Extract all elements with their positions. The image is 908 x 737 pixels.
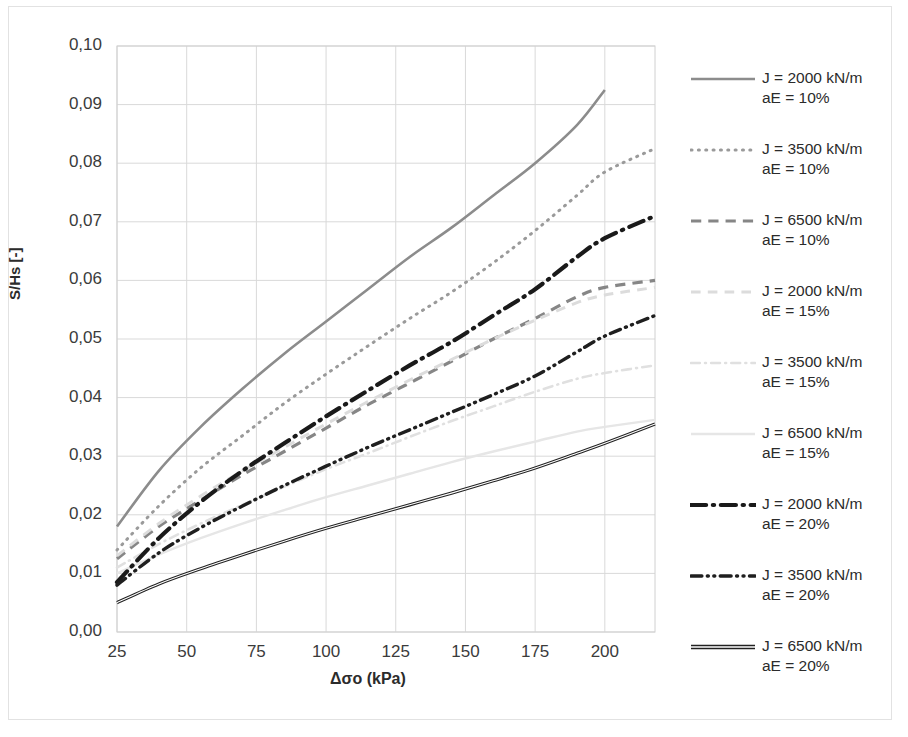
legend-entry-label-line1: J = 3500 kN/m [762,139,862,159]
y-tick-label: 0,04 [44,387,102,407]
x-tick-label: 50 [157,642,217,662]
legend-entry-label-line2: aE = 20% [762,656,862,676]
legend-entry-label-line2: aE = 10% [762,230,862,250]
legend-entry-label-line2: aE = 15% [762,372,862,392]
legend-entry-label-line1: J = 2000 kN/m [762,68,862,88]
y-tick-label: 0,06 [44,269,102,289]
legend-entry-label-line2: aE = 20% [762,585,862,605]
x-tick-label: 150 [435,642,495,662]
legend-swatch-2 [690,141,756,159]
legend-entry-4[interactable]: J = 2000 kN/maE = 15% [762,281,862,321]
legend-entry-label-line2: aE = 20% [762,514,862,534]
series-line [117,424,655,603]
legend-entry-label-line1: J = 2000 kN/m [762,494,862,514]
x-tick-label: 25 [87,642,147,662]
legend-swatch-3 [690,212,756,230]
legend-swatch-1 [690,70,756,88]
y-tick-label: 0,05 [44,328,102,348]
legend-entry-7[interactable]: J = 2000 kN/maE = 20% [762,494,862,534]
legend-swatch-7 [690,496,756,514]
y-tick-label: 0,03 [44,445,102,465]
series-line [117,420,655,574]
y-tick-label: 0,10 [44,35,102,55]
chart-page: S/Hs [-] Δσo (kPa) 0,000,010,020,030,040… [0,0,908,737]
legend-entry-label-line1: J = 2000 kN/m [762,281,862,301]
legend-swatch-5 [690,354,756,372]
x-tick-label: 200 [575,642,635,662]
legend-entry-2[interactable]: J = 3500 kN/maE = 10% [762,139,862,179]
y-tick-label: 0,00 [44,621,102,641]
series-line [117,316,655,586]
x-tick-label: 100 [296,642,356,662]
legend-entry-label-line1: J = 3500 kN/m [762,352,862,372]
legend-entry-label-line2: aE = 10% [762,159,862,179]
legend-entry-label-line1: J = 6500 kN/m [762,423,862,443]
series-line [117,287,655,555]
series-line [117,149,655,550]
legend-entry-label-line2: aE = 15% [762,443,862,463]
x-tick-label: 125 [366,642,426,662]
legend-entry-1[interactable]: J = 2000 kN/maE = 10% [762,68,862,108]
x-tick-label: 175 [505,642,565,662]
legend-entry-label-line1: J = 6500 kN/m [762,636,862,656]
series-line [117,280,655,558]
legend-swatch-8 [690,567,756,585]
legend-swatch-4 [690,283,756,301]
y-tick-label: 0,08 [44,152,102,172]
data-series-group [117,90,655,603]
gridlines [117,46,655,632]
legend-entry-label-line1: J = 3500 kN/m [762,565,862,585]
legend-entry-8[interactable]: J = 3500 kN/maE = 20% [762,565,862,605]
series-line [117,424,655,603]
legend-entry-label-line2: aE = 15% [762,301,862,321]
legend-swatch-9 [690,638,756,656]
series-line [117,216,655,582]
y-tick-label: 0,07 [44,211,102,231]
series-line [117,90,605,527]
y-tick-label: 0,09 [44,94,102,114]
y-tick-label: 0,02 [44,504,102,524]
legend-entry-3[interactable]: J = 6500 kN/maE = 10% [762,210,862,250]
legend-entry-5[interactable]: J = 3500 kN/maE = 15% [762,352,862,392]
y-tick-label: 0,01 [44,562,102,582]
legend-entry-label-line1: J = 6500 kN/m [762,210,862,230]
legend-entry-9[interactable]: J = 6500 kN/maE = 20% [762,636,862,676]
x-tick-label: 75 [226,642,286,662]
legend-entry-6[interactable]: J = 6500 kN/maE = 15% [762,423,862,463]
legend-swatch-6 [690,425,756,443]
legend-entry-label-line2: aE = 10% [762,88,862,108]
chart-container: S/Hs [-] Δσo (kPa) 0,000,010,020,030,040… [0,0,908,737]
